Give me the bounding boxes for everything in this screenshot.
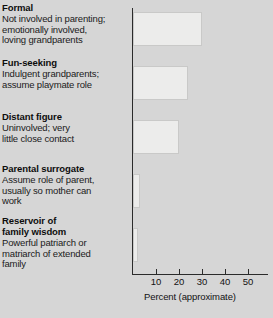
- chart-figure: Formal Not involved in parenting; emotio…: [0, 0, 273, 318]
- bar-reservoir-of-family-wisdom: [133, 228, 138, 262]
- x-axis-title: Percent (approximate): [144, 291, 236, 302]
- x-tick-label-10: 10: [146, 277, 166, 287]
- x-tick-30: [202, 269, 203, 274]
- plot-area: 10 20 30 40 50 Percent (approximate): [0, 0, 273, 318]
- x-tick-label-20: 20: [169, 277, 189, 287]
- x-tick-label-30: 30: [192, 277, 212, 287]
- x-tick-50: [248, 269, 249, 274]
- x-tick-40: [225, 269, 226, 274]
- y-axis-line: [132, 8, 133, 275]
- x-tick-label-50: 50: [238, 277, 258, 287]
- bar-formal: [133, 12, 202, 46]
- x-axis-line: [132, 274, 268, 275]
- bar-distant-figure: [133, 120, 179, 154]
- bar-parental-surrogate: [133, 174, 140, 208]
- x-tick-20: [179, 269, 180, 274]
- bar-fun-seeking: [133, 66, 188, 100]
- x-tick-label-40: 40: [215, 277, 235, 287]
- x-tick-10: [156, 269, 157, 274]
